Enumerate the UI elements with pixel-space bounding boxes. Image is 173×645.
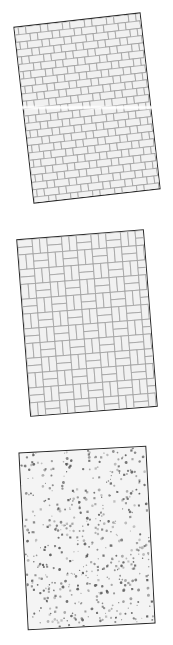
swatch-slot-1 bbox=[0, 0, 173, 215]
swatch-panel-herringbone[interactable] bbox=[13, 12, 160, 203]
swatch-stack: Material Swatch Panels Herringbone pavin… bbox=[0, 0, 173, 645]
herringbone-pattern-canvas bbox=[14, 13, 159, 202]
swatch-panel-basketweave[interactable] bbox=[16, 229, 158, 416]
speckle-pattern-canvas bbox=[19, 446, 154, 628]
swatch-panel-speckle[interactable] bbox=[18, 445, 155, 629]
basketweave-pattern-canvas bbox=[17, 230, 156, 415]
swatch-slot-2 bbox=[0, 215, 173, 430]
swatch-slot-3 bbox=[0, 430, 173, 645]
